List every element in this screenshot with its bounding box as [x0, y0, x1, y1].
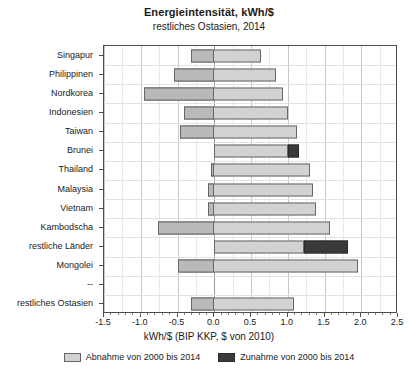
- x-axis-tick-label: -0.5: [169, 317, 185, 327]
- x-axis-tick-label: -1.5: [95, 317, 111, 327]
- x-axis-minor-tick: [147, 313, 148, 315]
- y-axis-label: Indonesien: [49, 107, 93, 117]
- x-axis-minor-tick: [154, 313, 155, 315]
- chart-title: Energieintensität, kWh/$: [0, 6, 418, 18]
- x-axis-minor-tick: [125, 313, 126, 315]
- x-axis-minor-tick: [140, 313, 141, 315]
- legend-label-increase: Zunahme von 2000 bis 2014: [240, 352, 354, 362]
- bar-row: [104, 180, 396, 199]
- x-axis-minor-tick: [191, 313, 192, 315]
- x-axis-minor-tick: [382, 313, 383, 315]
- x-axis-minor-tick: [206, 313, 207, 315]
- bar-segment-increase: [304, 240, 348, 253]
- bar-row: [104, 199, 396, 218]
- x-axis-tick-label: 2.5: [391, 317, 404, 327]
- legend-swatch-decrease-icon: [64, 353, 81, 362]
- bar-segment-decrease-negative: [184, 106, 214, 119]
- x-axis-tick-labels: -1.5-1.0-0.50.00.51.01.52.02.5: [0, 317, 418, 330]
- bar-row: [104, 142, 396, 161]
- x-axis-minor-tick: [331, 313, 332, 315]
- bar-row: [104, 103, 396, 122]
- y-axis-label: Kambodscha: [40, 222, 93, 232]
- bar-segment-decrease-negative: [180, 126, 214, 139]
- bar-segment-decrease-negative: [144, 87, 215, 100]
- x-axis-minor-tick: [132, 313, 133, 315]
- bar-segment-decrease: [214, 240, 304, 253]
- bar-row: [104, 84, 396, 103]
- y-axis-label: Vietnam: [60, 203, 93, 213]
- bar-segment-decrease: [208, 183, 313, 196]
- x-axis-minor-tick: [265, 313, 266, 315]
- bar-segment-increase: [288, 145, 299, 158]
- x-axis-minor-tick: [353, 313, 354, 315]
- x-axis-tick-label: -1.0: [132, 317, 148, 327]
- bar-segment-decrease: [208, 202, 315, 215]
- x-axis-minor-tick: [184, 313, 185, 315]
- x-axis-minor-tick: [301, 313, 302, 315]
- bar-row: [104, 218, 396, 237]
- legend-item-increase: Zunahme von 2000 bis 2014: [218, 352, 354, 362]
- bar-row: [104, 276, 396, 295]
- x-axis-tick-label: 0.5: [244, 317, 257, 327]
- bar-segment-decrease: [211, 164, 310, 177]
- x-axis-minor-tick: [199, 313, 200, 315]
- x-axis-minor-tick: [294, 313, 295, 315]
- y-axis-label: Thailand: [58, 164, 93, 174]
- x-axis-minor-tick: [309, 313, 310, 315]
- bar-segment-decrease-negative: [191, 298, 214, 311]
- bar-row: [104, 257, 396, 276]
- x-axis-tick-label: 1.5: [317, 317, 330, 327]
- bar-segment-decrease-negative: [191, 49, 214, 62]
- x-axis-minor-tick: [177, 313, 178, 315]
- x-axis-minor-tick: [375, 313, 376, 315]
- plot-area: [103, 45, 397, 313]
- x-axis-minor-tick: [110, 313, 111, 315]
- x-axis-minor-tick: [221, 313, 222, 315]
- x-axis-tick-label: 2.0: [354, 317, 367, 327]
- y-axis-label: Singapur: [57, 50, 93, 60]
- legend-swatch-increase-icon: [218, 353, 235, 362]
- bar-segment-decrease-negative: [208, 183, 214, 196]
- x-axis-minor-tick: [162, 313, 163, 315]
- bar-row: [104, 65, 396, 84]
- y-axis-label: restliches Ostasien: [17, 298, 93, 308]
- x-axis-minor-tick: [243, 313, 244, 315]
- y-axis-label: Nordkorea: [51, 88, 93, 98]
- x-axis-minor-tick: [118, 313, 119, 315]
- y-axis-label: Philippinen: [49, 69, 93, 79]
- x-axis-tick-label: 0.0: [207, 317, 220, 327]
- chart-legend: Abnahme von 2000 bis 2014 Zunahme von 20…: [0, 352, 418, 362]
- y-axis-label: Taiwan: [65, 126, 93, 136]
- bar-row: [104, 237, 396, 256]
- x-axis-minor-tick: [368, 313, 369, 315]
- y-axis-labels: SingapurPhilippinenNordkoreaIndonesienTa…: [0, 45, 99, 313]
- x-axis-minor-tick: [169, 313, 170, 315]
- x-axis-minor-tick: [390, 313, 391, 315]
- x-axis-title: kWh/$ (BIP KKP, $ von 2010): [0, 331, 418, 342]
- bar-row: [104, 123, 396, 142]
- bar-row: [104, 161, 396, 180]
- x-axis-minor-tick: [316, 313, 317, 315]
- x-axis-minor-tick: [338, 313, 339, 315]
- y-axis-label: Malaysia: [57, 184, 93, 194]
- x-axis-minor-tick: [235, 313, 236, 315]
- y-axis-label: restliche Länder: [29, 241, 93, 251]
- x-axis-minor-tick: [346, 313, 347, 315]
- x-axis-minor-tick: [257, 313, 258, 315]
- x-axis-minor-tick: [272, 313, 273, 315]
- x-axis-tick-label: 1.0: [280, 317, 293, 327]
- x-axis-minor-tick: [228, 313, 229, 315]
- bar-segment-decrease-negative: [158, 221, 215, 234]
- bar-segment-decrease-negative: [211, 164, 215, 177]
- bar-rows: [104, 46, 396, 312]
- bar-row: [104, 295, 396, 314]
- bar-row: [104, 46, 396, 65]
- chart-subtitle: restliches Ostasien, 2014: [0, 21, 418, 32]
- bar-segment-decrease: [214, 145, 288, 158]
- legend-item-decrease: Abnahme von 2000 bis 2014: [64, 352, 201, 362]
- y-axis-label: --: [87, 279, 93, 289]
- legend-label-decrease: Abnahme von 2000 bis 2014: [86, 352, 201, 362]
- bar-segment-decrease-negative: [174, 68, 214, 81]
- x-axis-minor-tick: [279, 313, 280, 315]
- energy-intensity-chart: Energieintensität, kWh/$ restliches Osta…: [0, 0, 418, 378]
